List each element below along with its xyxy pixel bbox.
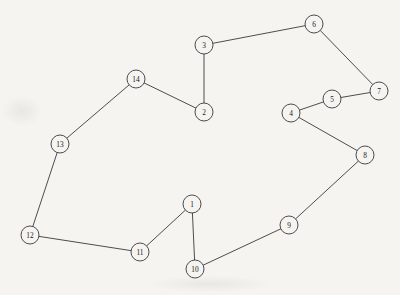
graph-canvas: 1234567891011121314 bbox=[0, 0, 400, 295]
graph-node-9[interactable]: 9 bbox=[280, 216, 298, 234]
graph-node-circle-5[interactable] bbox=[323, 90, 341, 108]
graph-edge-13-14 bbox=[67, 85, 129, 138]
graph-edge-11-12 bbox=[39, 236, 131, 250]
graph-node-7[interactable]: 7 bbox=[370, 82, 388, 100]
graph-edge-10-1 bbox=[192, 213, 194, 260]
graph-edge-5-4 bbox=[300, 102, 324, 110]
graph-node-circle-6[interactable] bbox=[305, 15, 323, 33]
graph-node-10[interactable]: 10 bbox=[186, 260, 204, 278]
graph-edge-4-8 bbox=[299, 117, 357, 150]
graph-node-circle-12[interactable] bbox=[21, 226, 39, 244]
edges-layer bbox=[33, 26, 373, 265]
graph-edge-1-11 bbox=[147, 210, 186, 246]
graph-node-circle-14[interactable] bbox=[127, 70, 145, 88]
graph-node-3[interactable]: 3 bbox=[195, 36, 213, 54]
graph-edge-12-13 bbox=[33, 153, 57, 227]
graph-node-circle-13[interactable] bbox=[51, 135, 69, 153]
graph-node-circle-7[interactable] bbox=[370, 82, 388, 100]
graph-node-6[interactable]: 6 bbox=[305, 15, 323, 33]
graph-node-12[interactable]: 12 bbox=[21, 226, 39, 244]
graph-node-circle-3[interactable] bbox=[195, 36, 213, 54]
graph-node-14[interactable]: 14 bbox=[127, 70, 145, 88]
graph-node-circle-4[interactable] bbox=[282, 104, 300, 122]
graph-edge-7-5 bbox=[341, 93, 370, 98]
graph-edge-6-7 bbox=[320, 30, 372, 84]
graph-node-8[interactable]: 8 bbox=[356, 146, 374, 164]
graph-node-13[interactable]: 13 bbox=[51, 135, 69, 153]
graph-node-1[interactable]: 1 bbox=[183, 195, 201, 213]
graph-edge-9-10 bbox=[203, 229, 281, 265]
graph-node-circle-2[interactable] bbox=[195, 103, 213, 121]
graph-node-circle-10[interactable] bbox=[186, 260, 204, 278]
graph-edge-3-6 bbox=[213, 26, 305, 44]
graph-edge-8-9 bbox=[296, 161, 359, 219]
nodes-layer: 1234567891011121314 bbox=[21, 15, 388, 278]
graph-node-circle-8[interactable] bbox=[356, 146, 374, 164]
graph-node-circle-9[interactable] bbox=[280, 216, 298, 234]
graph-node-11[interactable]: 11 bbox=[131, 243, 149, 261]
graph-node-5[interactable]: 5 bbox=[323, 90, 341, 108]
graph-node-2[interactable]: 2 bbox=[195, 103, 213, 121]
graph-edge-14-2 bbox=[144, 83, 196, 108]
graph-node-4[interactable]: 4 bbox=[282, 104, 300, 122]
graph-diagram: 1234567891011121314 bbox=[0, 0, 400, 295]
graph-node-circle-11[interactable] bbox=[131, 243, 149, 261]
graph-node-circle-1[interactable] bbox=[183, 195, 201, 213]
